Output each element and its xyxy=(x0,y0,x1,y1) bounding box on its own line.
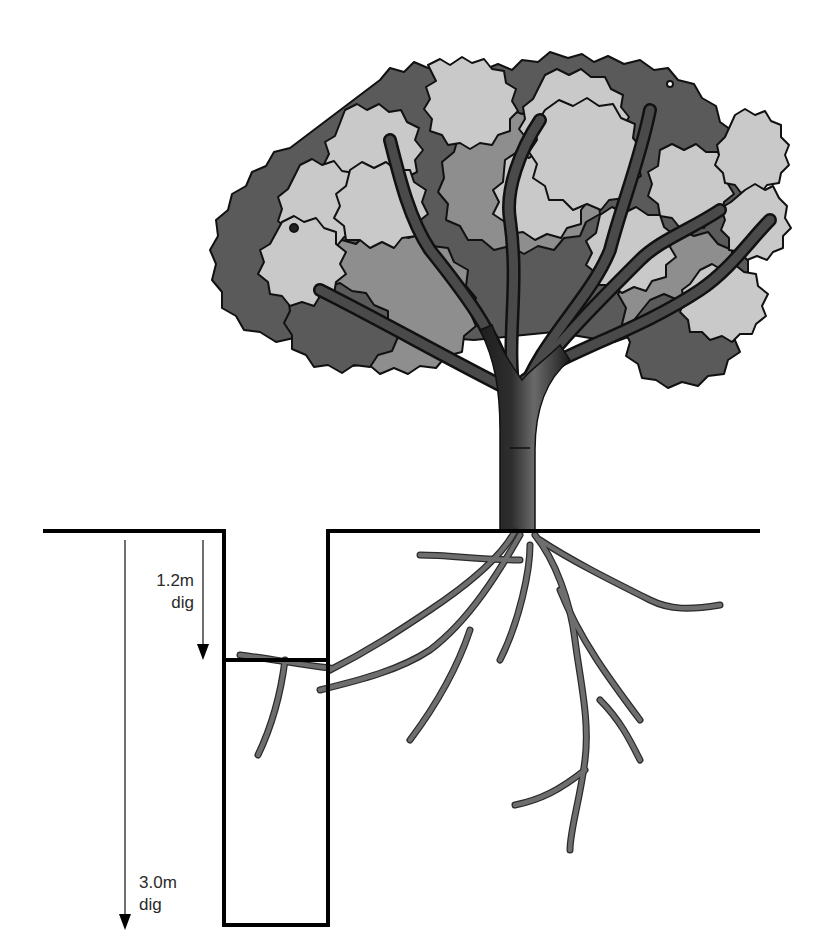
label-3-0m-word: dig xyxy=(139,894,209,916)
foliage-light-10 xyxy=(715,109,789,193)
dimension-arrow-1-2m xyxy=(197,540,209,660)
tree-trunk xyxy=(480,325,570,531)
label-3-0m-dig: 3.0m dig xyxy=(139,872,209,916)
berry-dot xyxy=(667,81,673,87)
label-1-2m-value: 1.2m xyxy=(130,570,194,592)
tree-roots xyxy=(240,531,720,850)
label-3-0m-value: 3.0m xyxy=(139,872,209,894)
label-1-2m-dig: 1.2m dig xyxy=(130,570,194,614)
label-1-2m-word: dig xyxy=(130,592,194,614)
tree-root-dig-diagram xyxy=(0,0,815,950)
berry-dot xyxy=(290,224,298,232)
